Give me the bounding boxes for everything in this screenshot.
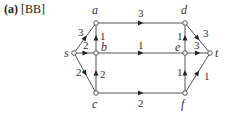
node-label: a (92, 3, 98, 17)
edge-a-d: 3 (96, 7, 185, 26)
node-t: t (208, 46, 219, 60)
arrowhead-icon (138, 51, 144, 56)
node-a: a (92, 3, 98, 25)
node-circle-icon (94, 51, 99, 56)
edge-weight: 1 (204, 70, 210, 82)
node-s: s (64, 46, 76, 60)
arrowhead-icon (138, 91, 144, 96)
edge-weight: 2 (138, 97, 144, 109)
edge-c-f: 2 (96, 91, 185, 110)
edge-weight: 3 (194, 39, 200, 51)
node-circle-icon (72, 51, 77, 56)
node-label: d (181, 3, 188, 17)
arrowhead-icon (83, 51, 89, 56)
node-label: t (215, 46, 219, 60)
nodes-layer: sabcdeft (64, 3, 219, 111)
arrowhead-icon (183, 70, 188, 76)
edge-weight: 3 (203, 27, 209, 39)
edge-weight: 2 (100, 68, 106, 80)
node-circle-icon (208, 51, 213, 56)
edge-weight: 1 (138, 39, 144, 51)
edge-weight: 3 (138, 7, 144, 19)
node-circle-icon (183, 51, 188, 56)
node-circle-icon (183, 91, 188, 96)
node-label: f (181, 97, 186, 111)
node-circle-icon (183, 21, 188, 26)
arrowhead-icon (94, 70, 99, 76)
edge-weight: 2 (83, 39, 89, 51)
node-c: c (92, 91, 98, 111)
arrowhead-icon (195, 51, 201, 56)
arrowhead-icon (94, 35, 99, 41)
edge-c-b: 2 (94, 53, 106, 93)
arrowhead-icon (82, 70, 89, 77)
edge-e-t: 3 (185, 39, 210, 56)
node-label: b (101, 40, 107, 54)
arrowhead-icon (194, 69, 201, 76)
node-circle-icon (94, 21, 99, 26)
edge-f-e: 1 (177, 53, 188, 93)
edge-f-t: 1 (185, 53, 210, 93)
node-circle-icon (94, 91, 99, 96)
edge-b-e: 1 (96, 39, 185, 56)
edge-weight: 2 (76, 66, 82, 78)
edge-s-b: 2 (74, 39, 96, 56)
edge-weight: 3 (78, 26, 84, 38)
edge-s-c: 2 (74, 53, 96, 93)
node-d: d (181, 3, 188, 25)
flow-network-graph: 3221231213311 sabcdeft (0, 0, 231, 116)
node-label: s (64, 46, 69, 60)
node-label: c (92, 97, 98, 111)
arrowhead-icon (183, 35, 188, 41)
node-label: e (175, 40, 181, 54)
edge-weight: 1 (177, 66, 183, 78)
arrowhead-icon (138, 21, 144, 26)
node-f: f (181, 91, 187, 111)
